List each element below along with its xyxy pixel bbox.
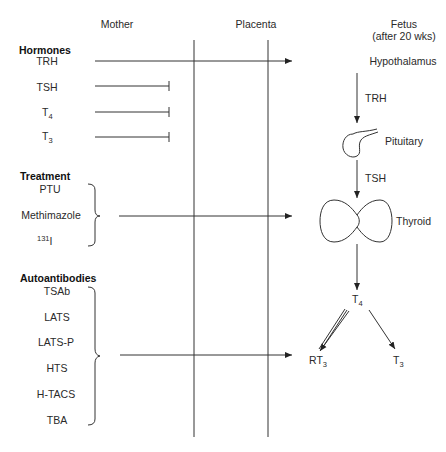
autoantibodies-section: Autoantibodies TSAb LATS LATS-P HTS H-TA… (20, 272, 292, 426)
fetal-rt3-label: RT3 (309, 354, 327, 369)
column-header-mother: Mother (101, 18, 134, 30)
autoantibody-lats-p-label: LATS-P (38, 336, 74, 348)
fetal-t3-label: T3 (393, 354, 404, 369)
autoantibodies-heading: Autoantibodies (20, 272, 97, 284)
autoantibody-tba-label: TBA (47, 414, 67, 426)
t4-to-rt3-arrow (320, 311, 349, 351)
treatment-heading: Treatment (20, 170, 71, 182)
thyroid-label: Thyroid (396, 215, 431, 227)
fetal-trh-label: TRH (365, 92, 387, 104)
thyroid-right-lobe-icon (357, 200, 392, 242)
treatment-ptu-label: PTU (40, 183, 61, 195)
autoantibody-h-tacs-label: H-TACS (37, 388, 75, 400)
hypothalamus-label: Hypothalamus (369, 55, 436, 67)
t4-to-t3-arrow (369, 310, 395, 349)
hormone-trh-label: TRH (36, 55, 58, 67)
hormone-t4-label: T4 (42, 106, 53, 121)
hormones-section: Hormones TRH TSH T4 T3 (19, 44, 292, 145)
fetal-t4-label: T4 (352, 293, 363, 308)
hormone-tsh-label: TSH (37, 81, 58, 93)
t4-to-rt3-line-1 (319, 309, 345, 349)
pituitary-icon (343, 132, 378, 157)
fetal-tsh-label: TSH (365, 172, 386, 184)
fetus-age-note: (after 20 wks) (372, 30, 436, 42)
autoantibody-lats-label: LATS (44, 311, 69, 323)
pituitary-label: Pituitary (385, 135, 424, 147)
autoantibody-tsab-label: TSAb (44, 285, 70, 297)
autoantibodies-brace (88, 287, 100, 425)
treatment-radioiodine-label: 131I (37, 234, 52, 247)
treatment-section: Treatment PTU Methimazole 131I (20, 170, 292, 247)
maternal-fetal-thyroid-diagram: Mother Placenta Fetus (after 20 wks) Hor… (0, 0, 446, 452)
thyroid-left-lobe-icon (320, 200, 359, 242)
autoantibody-hts-label: HTS (47, 362, 68, 374)
treatment-methimazole-label: Methimazole (21, 209, 81, 221)
hormone-t3-label: T3 (42, 130, 53, 145)
fetal-thyroid-axis: Hypothalamus TRH Pituitary TSH Thyroid T… (309, 55, 437, 369)
column-header-fetus: Fetus (391, 18, 417, 30)
treatment-brace (88, 184, 100, 246)
column-header-placenta: Placenta (236, 18, 277, 30)
